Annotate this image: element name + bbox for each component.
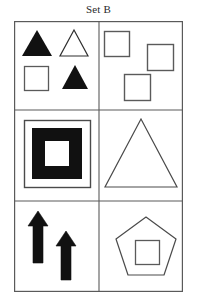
- outline-square-icon: [148, 45, 174, 71]
- inner-outline-square-icon: [136, 241, 160, 265]
- shape-grid: [14, 21, 183, 292]
- shape-grid-canvas: [14, 21, 183, 292]
- outline-square-icon: [125, 75, 151, 101]
- outline-square-icon: [105, 32, 130, 57]
- page-title: Set B: [0, 3, 197, 16]
- middle-left-cell: [25, 121, 91, 188]
- outline-square-icon: [25, 67, 49, 91]
